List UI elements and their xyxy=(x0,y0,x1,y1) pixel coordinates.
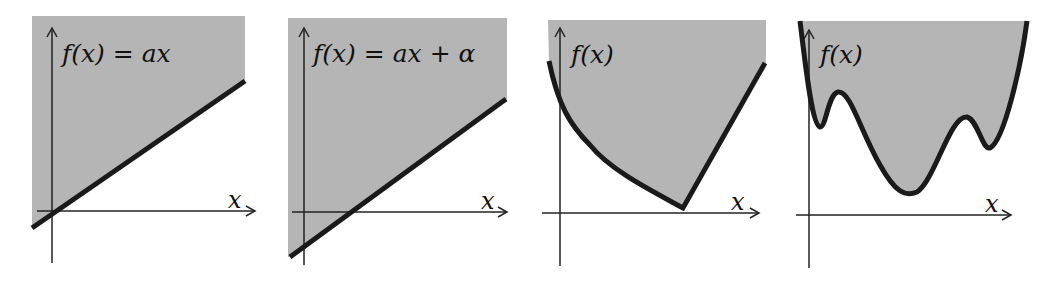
function-label: f(x) = ax + α xyxy=(311,39,476,68)
x-axis-label: x xyxy=(481,187,495,215)
panel-convex: f(x) x xyxy=(542,20,766,266)
figure: f(x) = ax x f(x) = ax + α x f(x) x f(x) … xyxy=(0,0,1054,286)
panel-linear: f(x) = ax x xyxy=(32,16,255,263)
function-label: f(x) xyxy=(818,40,863,69)
x-axis-label: x xyxy=(985,190,999,218)
function-label: f(x) xyxy=(569,40,614,69)
x-axis-label: x xyxy=(731,188,745,216)
panel-nonconvex: f(x) x xyxy=(796,21,1027,268)
x-axis-label: x xyxy=(228,186,242,214)
function-label: f(x) = ax xyxy=(60,39,171,68)
panel-affine: f(x) = ax + α x xyxy=(288,18,507,265)
